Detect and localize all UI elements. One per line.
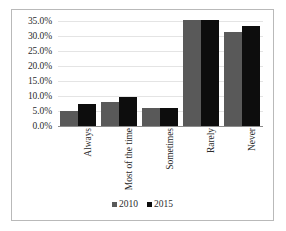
legend-item[interactable]: 2015 xyxy=(147,200,173,210)
bar-group xyxy=(99,21,140,126)
x-axis: AlwaysMost of the timeSometimesRarelyNev… xyxy=(58,128,263,200)
bar[interactable] xyxy=(101,102,119,126)
bar[interactable] xyxy=(60,111,78,126)
bar[interactable] xyxy=(183,20,201,126)
y-tick-label: 35.0% xyxy=(28,16,52,26)
bar-group xyxy=(181,21,222,126)
y-tick-label: 15.0% xyxy=(28,76,52,86)
x-tick-label: Never xyxy=(247,128,257,208)
bar[interactable] xyxy=(224,32,242,126)
y-tick-label: 20.0% xyxy=(28,61,52,71)
x-tick-label: Sometimes xyxy=(165,128,175,208)
bar-group xyxy=(222,21,263,126)
x-tick-label: Rarely xyxy=(206,128,216,208)
legend-swatch-icon xyxy=(112,202,117,207)
legend-label: 2010 xyxy=(119,200,138,210)
y-tick-label: 0.0% xyxy=(33,121,52,131)
y-tick-label: 30.0% xyxy=(28,31,52,41)
legend-swatch-icon xyxy=(147,202,152,207)
bar[interactable] xyxy=(160,108,178,126)
bars-layer xyxy=(58,21,263,126)
y-tick-label: 10.0% xyxy=(28,91,52,101)
chart-legend: 20102015 xyxy=(12,200,273,210)
chart-container: 0.0%5.0%10.0%15.0%20.0%25.0%30.0%35.0% A… xyxy=(11,9,274,221)
bar[interactable] xyxy=(78,104,96,126)
bar[interactable] xyxy=(119,97,137,126)
axis-baseline xyxy=(58,126,263,127)
y-tick-label: 5.0% xyxy=(33,106,52,116)
legend-item[interactable]: 2010 xyxy=(112,200,138,210)
bar-group xyxy=(58,21,99,126)
bar-group xyxy=(140,21,181,126)
legend-label: 2015 xyxy=(154,200,173,210)
y-axis: 0.0%5.0%10.0%15.0%20.0%25.0%30.0%35.0% xyxy=(12,21,55,126)
x-tick-label: Always xyxy=(83,128,93,208)
bar[interactable] xyxy=(201,20,219,126)
bar[interactable] xyxy=(142,108,160,126)
bar[interactable] xyxy=(242,26,260,126)
y-tick-label: 25.0% xyxy=(28,46,52,56)
x-tick-label: Most of the time xyxy=(124,128,134,208)
